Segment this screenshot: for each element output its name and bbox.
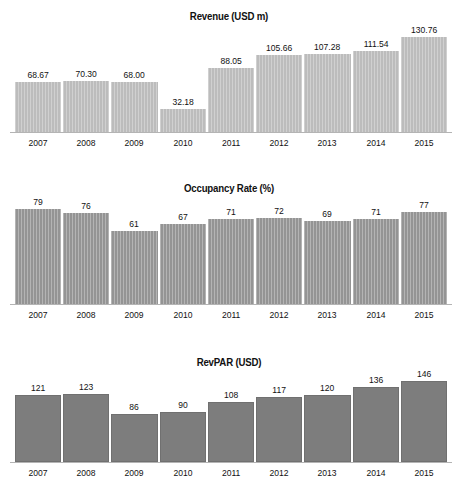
x-tick-label: 2008 — [66, 467, 108, 478]
x-tick-label: 2009 — [114, 309, 156, 320]
x-axis-line-revpar — [10, 462, 452, 463]
bar-value-label: 76 — [66, 200, 108, 211]
bar — [256, 218, 302, 304]
chart-revpar: RevPAR (USD) 1211238690108117120136146 2… — [0, 340, 458, 495]
bar-value-label: 71 — [355, 206, 397, 217]
bar — [111, 82, 157, 132]
bar-value-label: 61 — [114, 218, 156, 229]
bar-column: 130.76 — [401, 30, 447, 132]
bar-column: 68.00 — [111, 30, 157, 132]
bar — [208, 219, 254, 304]
chart-title-revpar: RevPAR (USD) — [18, 356, 439, 368]
bar-value-label: 71 — [210, 206, 252, 217]
bar-column: 111.54 — [353, 30, 399, 132]
bar — [401, 37, 447, 132]
x-tick-label: 2011 — [210, 467, 252, 478]
bar-column: 121 — [15, 376, 61, 462]
bar-group-revpar: 1211238690108117120136146 — [14, 376, 448, 462]
x-tick-label: 2012 — [258, 309, 300, 320]
bar-column: 117 — [256, 376, 302, 462]
x-tick-label: 2011 — [210, 309, 252, 320]
bar-value-label: 120 — [307, 382, 349, 393]
bar-column: 86 — [111, 376, 157, 462]
bar-value-label: 70.30 — [66, 68, 108, 79]
bar — [63, 394, 109, 462]
x-tick-label: 2014 — [355, 467, 397, 478]
bar-column: 77 — [401, 202, 447, 304]
bar — [208, 68, 254, 132]
x-axis-labels-revpar: 200720082009201020112012201320142015 — [14, 467, 448, 478]
bar-column: 120 — [304, 376, 350, 462]
bar-value-label: 90 — [162, 399, 204, 410]
bar-column: 123 — [63, 376, 109, 462]
x-axis-line-occupancy-rate — [10, 304, 452, 305]
bar-value-label: 72 — [258, 205, 300, 216]
x-tick-label: 2015 — [403, 137, 445, 148]
bar — [63, 81, 109, 132]
bar-column: 67 — [160, 202, 206, 304]
x-tick-label: 2009 — [114, 467, 156, 478]
bar-value-label: 32.18 — [162, 96, 204, 107]
bar-column: 105.66 — [256, 30, 302, 132]
bar-value-label: 123 — [66, 381, 108, 392]
x-tick-label: 2011 — [210, 137, 252, 148]
x-axis-line-revenue — [10, 132, 452, 133]
bar-column: 71 — [208, 202, 254, 304]
bar — [353, 387, 399, 462]
x-tick-label: 2015 — [403, 309, 445, 320]
x-tick-label: 2008 — [66, 137, 108, 148]
x-tick-label: 2007 — [17, 467, 59, 478]
bar — [304, 221, 350, 304]
x-tick-label: 2010 — [162, 137, 204, 148]
bar — [15, 395, 61, 462]
bar-value-label: 130.76 — [403, 24, 445, 35]
bar — [401, 381, 447, 462]
bar — [160, 412, 206, 462]
x-tick-label: 2014 — [355, 309, 397, 320]
bar-column: 72 — [256, 202, 302, 304]
x-tick-label: 2010 — [162, 467, 204, 478]
bar — [353, 51, 399, 132]
bar-value-label: 121 — [17, 382, 59, 393]
bar — [304, 395, 350, 462]
bar-column: 68.67 — [15, 30, 61, 132]
bar-group-occupancy-rate: 797661677172697177 — [14, 202, 448, 304]
chart-revenue: Revenue (USD m) 68.6770.3068.0032.1888.0… — [0, 0, 458, 165]
bar-column: 108 — [208, 376, 254, 462]
bar-column: 136 — [353, 376, 399, 462]
bar — [160, 224, 206, 304]
x-tick-label: 2007 — [17, 309, 59, 320]
bar-column: 76 — [63, 202, 109, 304]
plot-area-revpar: 1211238690108117120136146 — [0, 376, 458, 462]
bar-value-label: 77 — [403, 199, 445, 210]
bar — [111, 414, 157, 462]
bar-value-label: 88.05 — [210, 55, 252, 66]
plot-area-occupancy-rate: 797661677172697177 — [0, 202, 458, 304]
bar — [256, 397, 302, 462]
x-tick-label: 2012 — [258, 137, 300, 148]
bar-column: 90 — [160, 376, 206, 462]
bar-value-label: 86 — [114, 401, 156, 412]
bar-value-label: 69 — [307, 208, 349, 219]
x-tick-label: 2015 — [403, 467, 445, 478]
x-tick-label: 2007 — [17, 137, 59, 148]
bar — [208, 402, 254, 462]
bar-value-label: 108 — [210, 389, 252, 400]
bar — [304, 54, 350, 132]
x-tick-label: 2008 — [66, 309, 108, 320]
bar — [160, 109, 206, 132]
bar-group-revenue: 68.6770.3068.0032.1888.05105.66107.28111… — [14, 30, 448, 132]
bar — [15, 209, 61, 304]
plot-area-revenue: 68.6770.3068.0032.1888.05105.66107.28111… — [0, 30, 458, 132]
bar — [63, 213, 109, 304]
bar-column: 69 — [304, 202, 350, 304]
chart-title-occupancy-rate: Occupancy Rate (%) — [18, 182, 439, 194]
x-tick-label: 2013 — [307, 467, 349, 478]
bar-column: 88.05 — [208, 30, 254, 132]
bar-value-label: 107.28 — [307, 41, 349, 52]
bar-value-label: 105.66 — [258, 42, 300, 53]
bar-column: 79 — [15, 202, 61, 304]
bar-value-label: 136 — [355, 374, 397, 385]
bar-value-label: 117 — [258, 384, 300, 395]
x-axis-labels-revenue: 200720082009201020112012201320142015 — [14, 137, 448, 148]
